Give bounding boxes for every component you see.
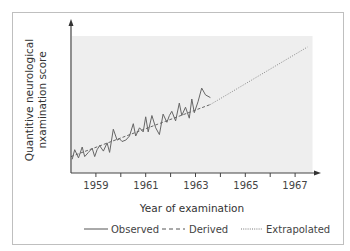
shaded-region <box>72 36 313 173</box>
x-tick-label: 1963 <box>183 180 208 191</box>
y-axis-label: Quantitive neurologicalnxamination score <box>16 30 56 170</box>
x-axis-arrow-icon <box>314 171 321 176</box>
x-tick-label: 1959 <box>83 180 108 191</box>
legend-observed-label: Observed <box>111 224 159 235</box>
x-tick-label: 1967 <box>282 180 307 191</box>
x-axis-label: Year of examination <box>72 202 312 214</box>
legend-derived-label: Derived <box>189 224 228 235</box>
y-axis-label-line2: nxamination score <box>36 51 48 148</box>
x-tick-label: 1965 <box>233 180 258 191</box>
legend-extrapolated-label: Extrapolated <box>266 224 330 235</box>
y-axis-arrow-icon <box>69 19 74 26</box>
x-tick-label: 1961 <box>133 180 158 191</box>
y-axis-label-line1: Quantitive neurological <box>23 39 35 161</box>
x-axis-ticks <box>96 173 295 177</box>
